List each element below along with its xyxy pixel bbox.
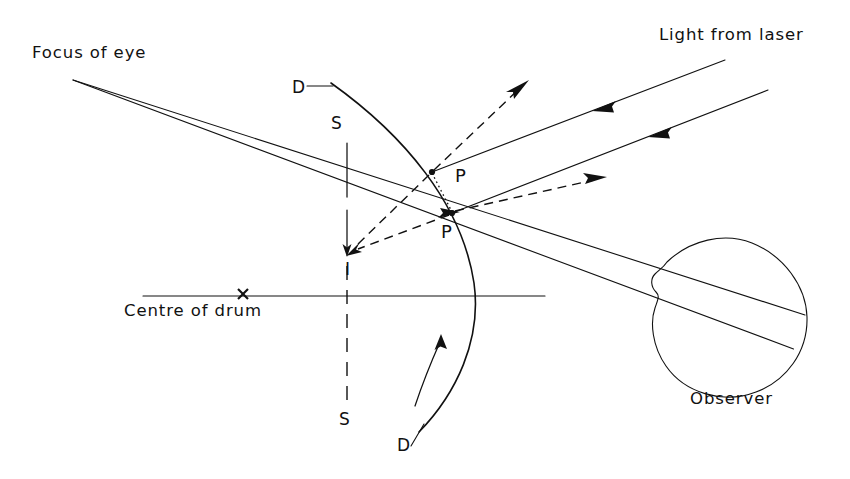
p-to-p-dotted-chord <box>432 173 452 212</box>
point-p-lower-label: P <box>441 221 452 242</box>
optics-diagram-figure: Focus of eye Light from laser Centre of … <box>0 0 850 479</box>
light-from-laser-label: Light from laser <box>659 25 804 44</box>
virtual-ray-from-upper-p <box>357 175 429 245</box>
drum-axis-group <box>143 289 545 299</box>
observer-eye-outline <box>652 238 807 397</box>
drum-bottom-label: D <box>397 435 411 455</box>
drum-bottom-leader <box>411 424 424 446</box>
reflected-arrowhead-upper-icon <box>506 80 529 99</box>
drum-top-label: D <box>292 77 306 97</box>
image-point-label: I <box>345 259 351 279</box>
rotation-arrowhead-icon <box>435 334 448 350</box>
laser-beams-group <box>432 60 768 213</box>
rotation-direction-arc <box>415 342 440 406</box>
drum-surface-arc <box>331 83 475 432</box>
virtual-ray-from-lower-p <box>358 215 449 249</box>
point-p-upper-node <box>429 169 435 175</box>
reflected-beams-group <box>434 80 607 218</box>
observer-label: Observer <box>690 389 773 408</box>
viewing-ray-upper <box>73 80 805 315</box>
screen-top-label: S <box>331 113 342 133</box>
drum-surface-group <box>307 83 475 446</box>
centre-of-drum-label: Centre of drum <box>124 301 262 320</box>
point-p-lower-node <box>449 210 455 216</box>
laser-arrowhead-upper-icon <box>592 101 616 113</box>
focus-of-eye-label: Focus of eye <box>32 43 146 62</box>
reflected-arrowhead-lower-icon <box>583 173 607 184</box>
reflected-beam-upper <box>434 89 519 170</box>
laser-beam-upper <box>432 60 725 172</box>
point-p-upper-label: P <box>455 165 466 186</box>
observer-eye-group <box>652 238 807 397</box>
laser-arrowhead-lower-icon <box>648 127 672 139</box>
diagram-canvas: Focus of eye Light from laser Centre of … <box>0 0 850 479</box>
centre-of-drum-cross-icon <box>238 289 248 299</box>
screen-bottom-label: S <box>339 409 350 429</box>
